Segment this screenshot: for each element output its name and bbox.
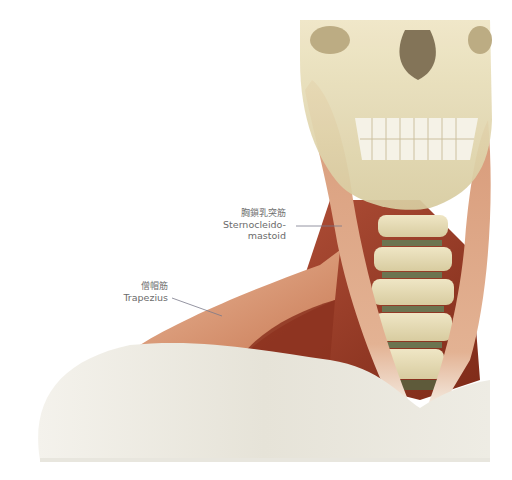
label-scm-japanese: 胸鎖乳突筋 [196,208,286,219]
label-trapezius: 僧帽筋 Trapezius [96,281,168,303]
label-trapezius-japanese: 僧帽筋 [96,281,168,292]
label-scm-english-1: Sternocleido- [196,219,286,230]
label-sternocleidomastoid: 胸鎖乳突筋 Sternocleido- mastoid [196,208,286,241]
label-scm-english-2: mastoid [196,230,286,241]
label-trapezius-english: Trapezius [96,292,168,303]
